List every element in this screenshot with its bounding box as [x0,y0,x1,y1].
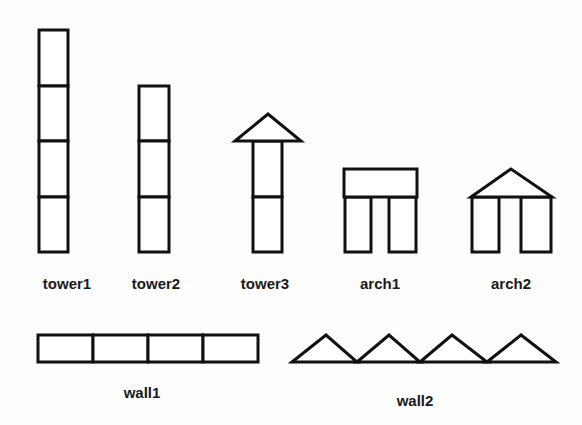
wall1-structure [38,335,258,362]
arch2-label: arch2 [491,275,531,292]
tower2-block-3 [139,86,169,141]
wall2-structure [292,335,556,362]
tower1-block-3 [39,86,68,141]
tower3-triangle [235,114,301,141]
tower3-block-2 [253,141,282,197]
tower2-label: tower2 [132,275,180,292]
arch2-right-leg [521,197,551,252]
arch2-structure [471,169,552,252]
tower3-structure [235,114,301,252]
arch1-left-leg [345,197,371,252]
tower1-structure [39,30,68,252]
wall2-triangle-4 [487,335,556,362]
wall2-label: wall2 [396,392,434,409]
wall2-triangle-1 [292,335,357,362]
arch1-structure [344,169,417,252]
tower1-block-1 [39,197,68,252]
tower3-block-1 [253,197,282,252]
arch2-left-leg [472,197,499,252]
arch1-right-leg [389,197,416,252]
wall2-triangle-2 [357,335,420,362]
wall1-label: wall1 [123,384,161,401]
tower3-label: tower3 [241,275,289,292]
tower2-block-1 [139,197,169,252]
wall2-triangle-3 [420,335,487,362]
tower2-structure [139,86,169,252]
tower2-block-2 [139,141,169,197]
tower1-block-2 [39,141,68,197]
wall1-block-4 [203,335,258,362]
arch1-lintel [344,169,417,197]
wall1-block-2 [93,335,148,362]
wall1-block-3 [148,335,203,362]
diagram-svg: tower1 tower2 tower3 arch1 arch2 wall1 w… [0,0,582,425]
tower1-label: tower1 [43,275,91,292]
arch2-triangle [471,169,552,197]
arch1-label: arch1 [360,275,400,292]
blocks-world-diagram: tower1 tower2 tower3 arch1 arch2 wall1 w… [0,0,582,425]
tower1-block-4 [39,30,68,86]
wall1-block-1 [38,335,93,362]
